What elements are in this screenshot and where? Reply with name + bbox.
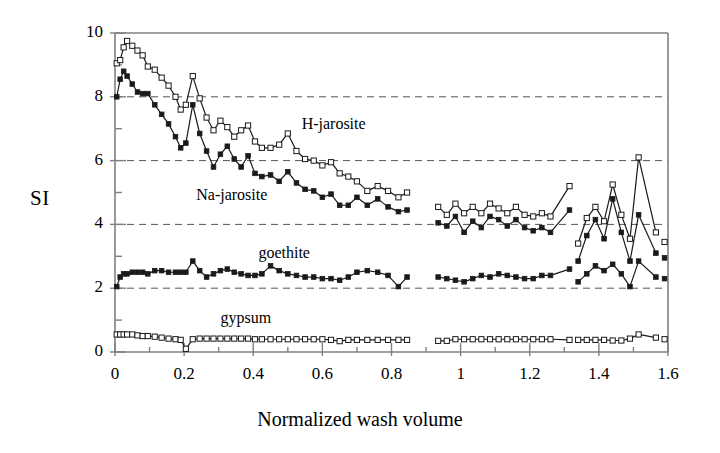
marker-filled-square bbox=[204, 149, 209, 154]
marker-open-square bbox=[354, 337, 359, 342]
marker-filled-square bbox=[311, 275, 316, 280]
marker-filled-square bbox=[178, 270, 183, 275]
marker-open-square bbox=[239, 336, 244, 341]
marker-filled-square bbox=[636, 213, 641, 218]
marker-filled-square bbox=[610, 262, 615, 267]
marker-filled-square bbox=[135, 90, 140, 95]
marker-open-square bbox=[531, 337, 536, 342]
marker-filled-square bbox=[453, 214, 458, 219]
marker-filled-square bbox=[140, 91, 145, 96]
marker-open-square bbox=[173, 94, 178, 99]
marker-open-square bbox=[337, 171, 342, 176]
marker-open-square bbox=[548, 214, 553, 219]
y-tick-label-8: 8 bbox=[59, 86, 103, 106]
x-tick-label-1.2: 1.2 bbox=[500, 364, 560, 384]
series-label-na-jarosite: Na-jarosite bbox=[196, 186, 267, 204]
marker-filled-square bbox=[303, 275, 308, 280]
marker-filled-square bbox=[365, 268, 370, 273]
marker-filled-square bbox=[329, 276, 334, 281]
marker-filled-square bbox=[522, 225, 527, 230]
marker-open-square bbox=[159, 75, 164, 80]
marker-filled-square bbox=[505, 224, 510, 229]
marker-filled-square bbox=[375, 270, 380, 275]
marker-filled-square bbox=[311, 189, 316, 194]
marker-filled-square bbox=[386, 273, 391, 278]
x-axis-title: Normalized wash volume bbox=[0, 408, 720, 431]
x-tick-label-0: 0 bbox=[85, 364, 145, 384]
marker-open-square bbox=[610, 182, 615, 187]
marker-open-square bbox=[130, 332, 135, 337]
marker-filled-square bbox=[584, 272, 589, 277]
marker-filled-square bbox=[135, 270, 140, 275]
marker-open-square bbox=[487, 201, 492, 206]
marker-filled-square bbox=[204, 275, 209, 280]
marker-open-square bbox=[211, 128, 216, 133]
axis-ticks-group bbox=[110, 33, 668, 356]
marker-open-square bbox=[567, 337, 572, 342]
marker-filled-square bbox=[232, 270, 237, 275]
marker-filled-square bbox=[337, 278, 342, 283]
marker-filled-square bbox=[130, 270, 135, 275]
marker-filled-square bbox=[567, 267, 572, 272]
x-tick-label-0.4: 0.4 bbox=[223, 364, 283, 384]
series-line-segment bbox=[578, 261, 656, 287]
marker-open-square bbox=[268, 145, 273, 150]
marker-open-square bbox=[320, 337, 325, 342]
marker-open-square bbox=[576, 337, 581, 342]
marker-open-square bbox=[178, 107, 183, 112]
marker-filled-square bbox=[584, 233, 589, 238]
marker-open-square bbox=[404, 337, 409, 342]
marker-filled-square bbox=[303, 187, 308, 192]
marker-filled-square bbox=[576, 280, 581, 285]
marker-open-square bbox=[294, 148, 299, 153]
marker-open-square bbox=[461, 211, 466, 216]
marker-open-square bbox=[166, 336, 171, 341]
marker-open-square bbox=[159, 335, 164, 340]
marker-open-square bbox=[436, 204, 441, 209]
marker-open-square bbox=[539, 337, 544, 342]
marker-filled-square bbox=[496, 272, 501, 277]
marker-open-square bbox=[252, 139, 257, 144]
marker-open-square bbox=[268, 337, 273, 342]
marker-filled-square bbox=[118, 77, 123, 82]
marker-filled-square bbox=[190, 102, 195, 107]
marker-open-square bbox=[277, 142, 282, 147]
marker-filled-square bbox=[548, 273, 553, 278]
marker-open-square bbox=[302, 337, 307, 342]
marker-filled-square bbox=[628, 284, 633, 289]
marker-filled-square bbox=[159, 268, 164, 273]
series-gypsum bbox=[114, 332, 667, 352]
marker-open-square bbox=[479, 211, 484, 216]
y-tick-label-10: 10 bbox=[59, 22, 103, 42]
x-tick-label-0.6: 0.6 bbox=[292, 364, 352, 384]
marker-open-square bbox=[337, 339, 342, 344]
marker-filled-square bbox=[337, 203, 342, 208]
y-tick-label-2: 2 bbox=[59, 277, 103, 297]
marker-filled-square bbox=[114, 95, 119, 100]
marker-filled-square bbox=[445, 224, 450, 229]
marker-filled-square bbox=[286, 272, 291, 277]
marker-open-square bbox=[453, 337, 458, 342]
marker-filled-square bbox=[260, 272, 265, 277]
marker-filled-square bbox=[211, 272, 216, 277]
y-tick-label-6: 6 bbox=[59, 150, 103, 170]
marker-filled-square bbox=[125, 74, 130, 79]
marker-open-square bbox=[385, 188, 390, 193]
marker-open-square bbox=[140, 333, 145, 338]
marker-filled-square bbox=[346, 275, 351, 280]
marker-open-square bbox=[576, 241, 581, 246]
marker-open-square bbox=[135, 333, 140, 338]
marker-filled-square bbox=[320, 276, 325, 281]
x-tick-label-0.2: 0.2 bbox=[154, 364, 214, 384]
marker-open-square bbox=[365, 188, 370, 193]
marker-filled-square bbox=[268, 173, 273, 178]
marker-open-square bbox=[190, 73, 195, 78]
marker-open-square bbox=[653, 230, 658, 235]
marker-open-square bbox=[662, 239, 667, 244]
marker-open-square bbox=[396, 337, 401, 342]
marker-filled-square bbox=[514, 217, 519, 222]
marker-open-square bbox=[627, 236, 632, 241]
marker-filled-square bbox=[146, 91, 151, 96]
marker-filled-square bbox=[488, 214, 493, 219]
marker-filled-square bbox=[445, 276, 450, 281]
